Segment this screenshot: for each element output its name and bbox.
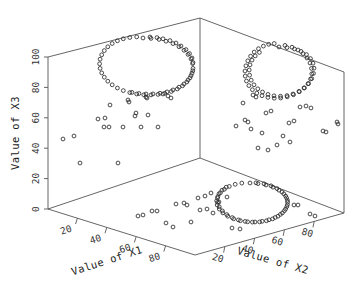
data-point — [141, 36, 145, 40]
axis-title-x3: Value of X3 — [9, 96, 21, 170]
tick-label-x3-40: 40 — [30, 142, 41, 154]
data-point — [146, 113, 150, 117]
data-point — [243, 69, 247, 73]
data-point — [292, 203, 296, 207]
data-point — [209, 191, 213, 195]
data-point — [249, 78, 253, 82]
data-point — [247, 84, 251, 88]
data-point — [102, 75, 106, 79]
data-point — [137, 92, 141, 96]
data-point — [161, 37, 165, 41]
data-point — [230, 226, 234, 230]
data-point — [150, 209, 154, 213]
data-point — [102, 125, 106, 129]
data-point — [211, 211, 215, 215]
data-point — [251, 220, 255, 224]
data-point — [233, 182, 237, 186]
tick-label-x2-20: 20 — [211, 251, 225, 265]
data-point — [296, 203, 300, 207]
axis-line-x2 — [195, 213, 344, 255]
data-point — [121, 89, 125, 93]
data-point — [190, 56, 194, 60]
data-point — [103, 116, 107, 120]
data-point — [247, 68, 251, 72]
data-point — [261, 90, 265, 94]
data-point — [260, 94, 264, 98]
data-point — [102, 49, 106, 53]
tick-label-x2-60: 60 — [271, 234, 285, 248]
cluster-ring-x1x2 — [215, 181, 290, 224]
data-point — [110, 42, 114, 46]
cluster-ring-x1x3 — [98, 35, 195, 97]
data-point — [196, 196, 200, 200]
data-point — [249, 127, 253, 131]
data-point — [264, 111, 268, 115]
data-point — [139, 125, 143, 129]
data-point — [136, 214, 140, 218]
plot-box-frame — [48, 18, 344, 255]
data-point — [272, 42, 276, 46]
data-point — [78, 161, 82, 165]
data-point — [168, 39, 172, 43]
tick-label-x2-80: 80 — [300, 226, 314, 240]
data-point — [108, 103, 112, 107]
data-point — [145, 96, 149, 100]
data-point — [116, 161, 120, 165]
data-point — [256, 87, 260, 91]
data-point — [141, 213, 145, 217]
data-point — [155, 209, 159, 213]
ticks-x3: 0 20 40 60 80 100 — [30, 48, 48, 212]
data-point — [260, 131, 264, 135]
data-point — [252, 50, 256, 54]
data-point — [269, 109, 273, 113]
data-point — [98, 67, 102, 71]
data-point — [106, 45, 110, 49]
data-point — [106, 79, 110, 83]
data-point — [253, 54, 257, 58]
data-point — [258, 51, 262, 55]
data-point — [171, 225, 175, 229]
data-point — [61, 137, 65, 141]
data-point — [100, 71, 104, 75]
tick-label-x3-20: 20 — [30, 173, 41, 185]
data-point — [258, 220, 262, 224]
data-point — [248, 181, 252, 185]
data-point — [262, 44, 266, 48]
data-point — [243, 74, 247, 78]
data-point — [116, 86, 120, 90]
data-point — [107, 125, 111, 129]
data-point — [304, 104, 308, 108]
tick-label-x1-20: 20 — [59, 223, 74, 237]
scatter-plot-3d: 0 20 40 60 80 100 Value of X3 20 40 60 8… — [0, 0, 362, 288]
cluster-ring-x2x3 — [243, 42, 316, 101]
data-point — [309, 106, 313, 110]
data-point — [251, 88, 255, 92]
data-point — [250, 58, 254, 62]
data-point — [169, 96, 173, 100]
data-point — [234, 124, 238, 128]
data-point — [110, 83, 114, 87]
data-point — [244, 64, 248, 68]
data-point — [241, 101, 245, 105]
data-point — [281, 134, 285, 138]
data-point — [96, 117, 100, 121]
data-point — [100, 53, 104, 57]
data-point — [238, 227, 242, 231]
data-point — [72, 134, 76, 138]
noise-points-x1x2 — [136, 191, 317, 231]
tick-label-x1-80: 80 — [147, 250, 162, 264]
data-point — [248, 63, 252, 67]
data-point — [275, 143, 279, 147]
tick-label-x3-0: 0 — [30, 206, 41, 212]
data-point — [248, 73, 252, 77]
data-point — [310, 67, 314, 71]
data-point — [190, 71, 194, 75]
tick-label-x1-40: 40 — [88, 232, 103, 246]
noise-points-x1x3 — [61, 92, 173, 165]
data-point — [245, 79, 249, 83]
data-point — [272, 94, 276, 98]
data-point — [191, 69, 195, 73]
data-point — [156, 125, 160, 129]
data-point — [249, 54, 253, 58]
data-point — [246, 120, 250, 124]
